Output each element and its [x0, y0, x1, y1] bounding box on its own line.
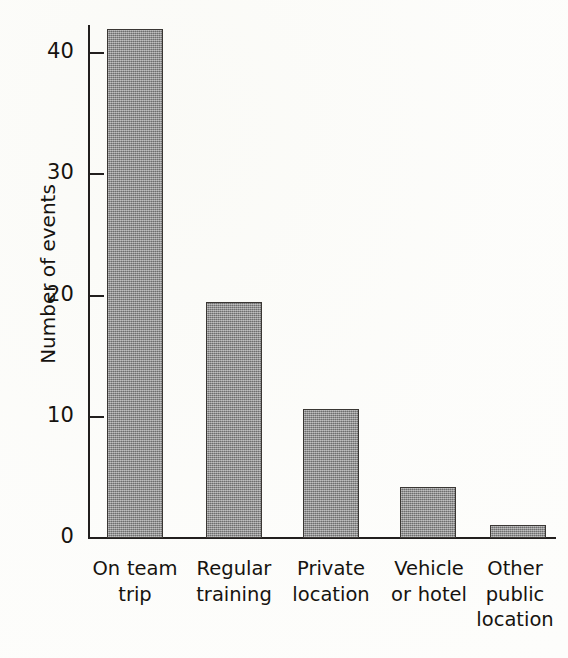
y-tick-label-10: 10	[47, 405, 74, 426]
bar-private-location	[303, 409, 359, 538]
plot-area: Number of events 0 10 20 30 40 On teamtr…	[0, 0, 568, 658]
y-tick-mark-0	[90, 537, 104, 539]
y-tick-label-0: 0	[60, 526, 74, 547]
x-category-label-regular-training: Regulartraining	[178, 556, 290, 607]
bar-vehicle-or-hotel	[400, 487, 456, 538]
bar-chart-figure: Number of events 0 10 20 30 40 On teamtr…	[0, 0, 568, 658]
y-tick-mark-40	[90, 52, 104, 54]
x-category-label-private-location: Privatelocation	[275, 556, 387, 607]
y-tick-mark-10	[90, 416, 104, 418]
y-tick-mark-30	[90, 173, 104, 175]
y-axis-line	[88, 25, 90, 539]
bar-regular-training	[206, 302, 262, 538]
y-tick-mark-20	[90, 295, 104, 297]
bar-on-team-trip	[107, 29, 163, 538]
y-axis-title: Number of events	[36, 174, 60, 374]
y-tick-label-40: 40	[47, 41, 74, 62]
x-category-label-line: Regular	[178, 556, 290, 582]
x-category-label-line: On team	[79, 556, 191, 582]
x-category-label-other-public-location: Otherpubliclocation	[465, 556, 565, 633]
y-tick-label-20: 20	[47, 284, 74, 305]
x-category-label-line: Other	[465, 556, 565, 582]
bar-other-public-location	[490, 525, 546, 538]
x-category-label-on-team-trip: On teamtrip	[79, 556, 191, 607]
x-category-label-line: trip	[79, 582, 191, 608]
x-category-label-line: Private	[275, 556, 387, 582]
y-tick-label-30: 30	[47, 162, 74, 183]
x-category-label-line: location	[275, 582, 387, 608]
x-category-label-line: training	[178, 582, 290, 608]
x-category-label-line: location	[465, 607, 565, 633]
x-category-label-line: public	[465, 582, 565, 608]
